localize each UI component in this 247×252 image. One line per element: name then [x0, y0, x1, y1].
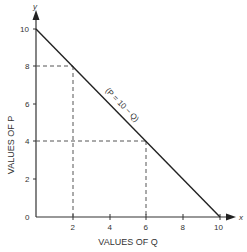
- y-tick-label: 6: [25, 100, 30, 109]
- y-tick-label: 8: [25, 62, 30, 71]
- x-tick-label: 6: [144, 223, 149, 232]
- x-tick-label: 8: [181, 223, 186, 232]
- x-axis-arrow-icon: [226, 214, 236, 221]
- y-tick-label: 10: [20, 25, 29, 34]
- x-tick-label: 4: [108, 223, 113, 232]
- demand-line-label: (P = 10 − Q): [104, 86, 141, 124]
- y-axis-arrow-icon: [33, 10, 40, 20]
- y-tick-label: 2: [25, 175, 30, 184]
- y-axis-title: VALUES OF P: [6, 116, 16, 174]
- y-tick-label: 0: [25, 213, 30, 222]
- x-axis-title: VALUES OF Q: [98, 237, 157, 247]
- x-axis-letter: x: [238, 213, 244, 222]
- guide-lines: [36, 66, 146, 217]
- demand-line: [36, 29, 220, 217]
- demand-chart: y x 10 8 6 4 2 0 2 4 6 8 10 (P = 10 − Q)…: [0, 0, 247, 252]
- x-tick-label: 10: [214, 223, 223, 232]
- x-tick-label: 2: [71, 223, 76, 232]
- y-axis-letter: y: [32, 2, 38, 11]
- y-tick-label: 4: [25, 137, 30, 146]
